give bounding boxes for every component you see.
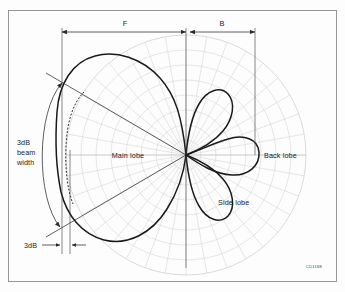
beamwidth-label-line1: 3dB [17, 138, 30, 147]
beamwidth-arc [42, 83, 62, 227]
back-lobe-curve [186, 137, 259, 175]
figure-border [9, 11, 337, 282]
main-lobe-label: Main lobe [112, 151, 145, 160]
back-dimension-label: B [219, 19, 224, 28]
front-dimension-label: F [123, 19, 128, 28]
three-db-offset-group: 3dB [24, 241, 86, 250]
beamwidth-label-line2: beam [17, 148, 35, 157]
three-db-label: 3dB [24, 241, 37, 250]
side-lobe-label: Side lobe [218, 198, 249, 207]
figure-code-label: CD1188 [306, 264, 323, 269]
back-lobe-label: Back lobe [264, 151, 297, 160]
antenna-pattern-figure: F B 3dB beam width 3dB Main lobe Back lo… [0, 0, 345, 292]
radiation-pattern-diagram: F B 3dB beam width 3dB Main lobe Back lo… [0, 0, 345, 292]
beamwidth-arc-group: 3dB beam width [16, 83, 62, 227]
beamwidth-label-line3: width [16, 158, 34, 167]
